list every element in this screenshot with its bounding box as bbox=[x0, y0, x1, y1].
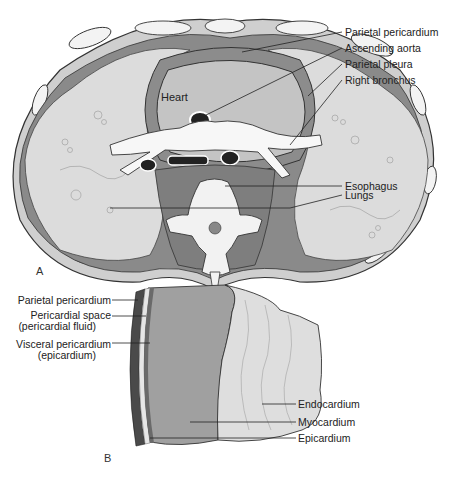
panel-letter-a: A bbox=[36, 265, 43, 277]
label-epicardium: Epicardium bbox=[298, 432, 351, 444]
label-pericardial-fluid: (pericardial fluid) bbox=[18, 320, 96, 332]
label-parietal-pleura: Parietal pleura bbox=[345, 58, 413, 70]
heart-label: Heart bbox=[161, 91, 188, 103]
label-parietal-pericardium-b: Parietal pericardium bbox=[18, 294, 111, 306]
label-epicardium-paren: (epicardium) bbox=[38, 349, 96, 361]
label-right-bronchus: Right bronchus bbox=[345, 74, 416, 86]
label-myocardium: Myocardium bbox=[298, 416, 355, 428]
label-lungs: Lungs bbox=[345, 189, 374, 201]
panel-letter-b: B bbox=[104, 452, 111, 464]
label-endocardium: Endocardium bbox=[298, 398, 360, 410]
cross-section-illustration bbox=[0, 0, 454, 479]
label-ascending-aorta: Ascending aorta bbox=[345, 42, 421, 54]
label-parietal-pericardium: Parietal pericardium bbox=[345, 26, 438, 38]
